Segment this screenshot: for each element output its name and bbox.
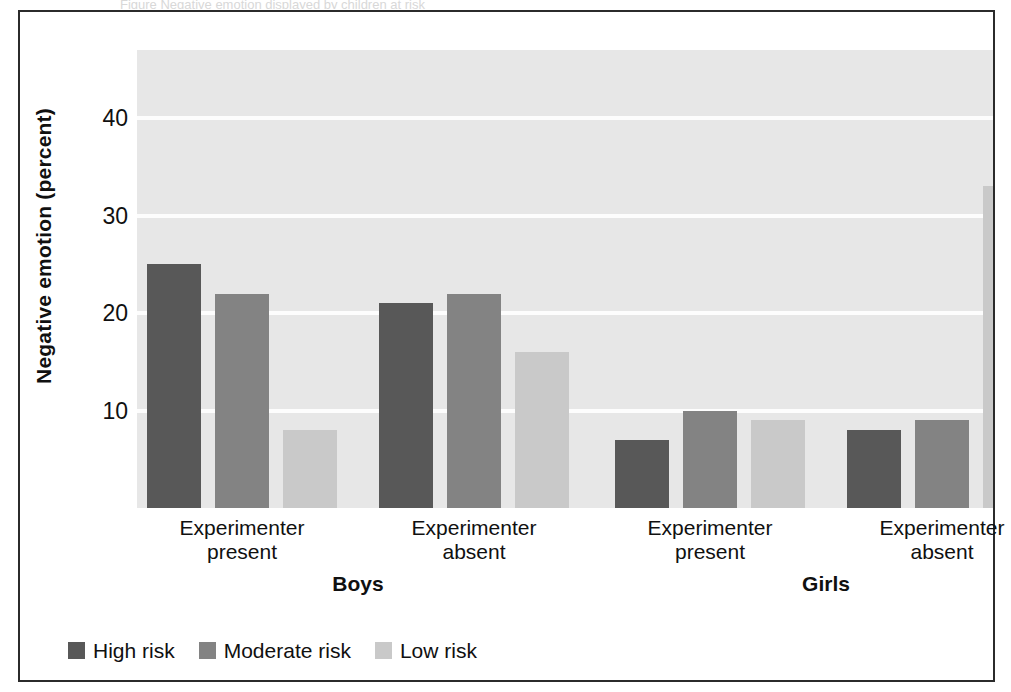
y-tick-label-20: 20 [86, 302, 128, 325]
x-axis-labels: ExperimenterpresentExperimenterabsentExp… [137, 512, 993, 612]
x-category-label-0: Experimenterpresent [137, 516, 347, 565]
y-axis-tick-labels: 10203040 [76, 50, 128, 508]
figure-frame: Negative emotion (percent) 10203040 Expe… [18, 10, 995, 682]
bar-high-risk-cat3 [847, 430, 901, 508]
bar-high-risk-cat0 [147, 264, 201, 508]
bar-high-risk-cat1 [379, 303, 433, 508]
y-axis-title: Negative emotion (percent) [32, 16, 56, 476]
y-tick-label-30: 30 [86, 205, 128, 228]
y-tick-label-40: 40 [86, 107, 128, 130]
legend-swatch-icon [68, 642, 85, 659]
x-category-label-line: present [605, 540, 815, 564]
y-tick-label-10: 10 [86, 400, 128, 423]
legend-label: High risk [93, 640, 175, 661]
x-category-label-line: Experimenter [369, 516, 579, 540]
bar-high-risk-cat2 [615, 440, 669, 508]
x-category-label-line: Experimenter [837, 516, 1011, 540]
gridline-30 [137, 214, 993, 218]
bar-moderate-risk-cat2 [683, 411, 737, 508]
x-category-label-line: Experimenter [137, 516, 347, 540]
bar-low-risk-cat1 [515, 352, 569, 508]
legend-item-high-risk[interactable]: High risk [68, 640, 175, 661]
bar-low-risk-cat0 [283, 430, 337, 508]
bar-low-risk-cat3 [983, 186, 993, 508]
gridline-40 [137, 116, 993, 120]
legend-item-moderate-risk[interactable]: Moderate risk [199, 640, 351, 661]
plot-area [137, 50, 993, 508]
bar-moderate-risk-cat0 [215, 294, 269, 508]
legend-label: Moderate risk [224, 640, 351, 661]
x-category-label-2: Experimenterpresent [605, 516, 815, 565]
bar-moderate-risk-cat1 [447, 294, 501, 508]
bar-low-risk-cat2 [751, 420, 805, 508]
legend-swatch-icon [375, 642, 392, 659]
x-category-label-1: Experimenterabsent [369, 516, 579, 565]
chart-legend: High riskModerate riskLow risk [68, 640, 491, 661]
legend-swatch-icon [199, 642, 216, 659]
x-group-label-girls: Girls [726, 572, 926, 596]
x-group-label-boys: Boys [258, 572, 458, 596]
legend-item-low-risk[interactable]: Low risk [375, 640, 477, 661]
x-category-label-3: Experimenterabsent [837, 516, 1011, 565]
x-category-label-line: absent [837, 540, 1011, 564]
x-category-label-line: absent [369, 540, 579, 564]
legend-label: Low risk [400, 640, 477, 661]
bar-moderate-risk-cat3 [915, 420, 969, 508]
x-category-label-line: present [137, 540, 347, 564]
x-category-label-line: Experimenter [605, 516, 815, 540]
figure-top-caption: Figure Negative emotion displayed by chi… [120, 0, 880, 9]
